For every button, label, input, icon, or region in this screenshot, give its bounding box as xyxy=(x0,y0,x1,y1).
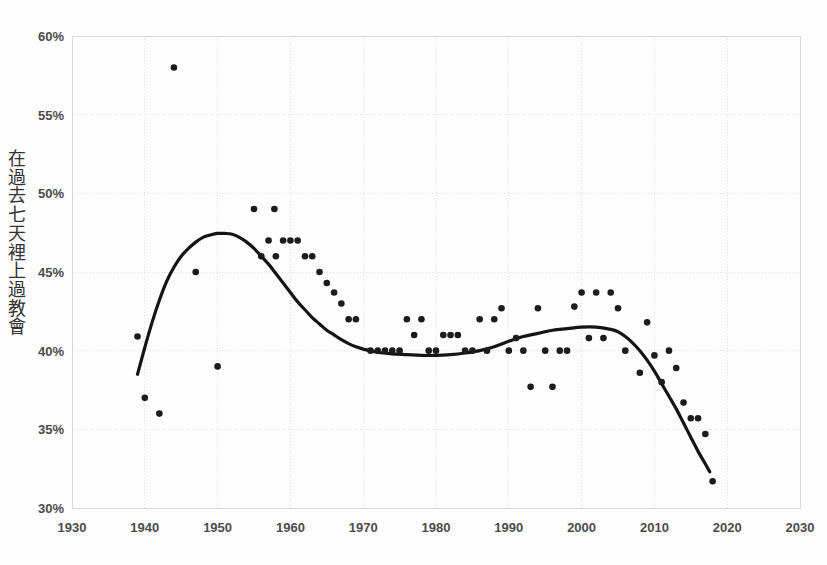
data-point xyxy=(280,237,287,244)
data-point xyxy=(556,347,563,354)
data-point xyxy=(273,253,280,260)
data-point xyxy=(527,384,534,391)
data-point xyxy=(331,289,338,296)
x-tick-label-2030: 2030 xyxy=(786,520,815,535)
y-axis-title: 在過去七天裡上過教會 xyxy=(4,150,30,337)
data-point xyxy=(192,269,199,276)
data-point xyxy=(688,415,695,422)
data-point xyxy=(578,289,585,296)
x-tick-label-1980: 1980 xyxy=(422,520,451,535)
data-point xyxy=(564,347,571,354)
y-tick-label-60: 60% xyxy=(38,29,64,44)
data-point xyxy=(506,347,513,354)
data-point xyxy=(374,347,381,354)
y-tick-label-55: 55% xyxy=(38,108,64,123)
y-axis-title-char: 會 xyxy=(8,318,26,337)
data-point xyxy=(637,369,644,376)
data-point xyxy=(462,347,469,354)
data-point xyxy=(571,303,578,310)
y-tick-label-40: 40% xyxy=(38,344,64,359)
data-point xyxy=(658,379,665,386)
y-axis-title-char: 天 xyxy=(8,225,26,244)
data-point xyxy=(695,415,702,422)
data-point xyxy=(440,332,447,339)
data-point xyxy=(702,431,709,438)
data-point xyxy=(265,237,272,244)
x-axis-tick-labels: 1930194019501960197019801990200020102020… xyxy=(58,520,815,535)
data-point xyxy=(491,316,498,323)
data-point xyxy=(498,305,505,312)
data-point xyxy=(651,352,658,359)
x-tick-label-1990: 1990 xyxy=(494,520,523,535)
y-axis-tick-labels: 30%35%40%45%50%55%60% xyxy=(38,29,64,516)
data-point xyxy=(271,206,278,213)
data-point xyxy=(287,237,294,244)
data-point xyxy=(353,316,360,323)
plot-canvas: 30%35%40%45%50%55%60% 193019401950196019… xyxy=(0,0,827,565)
y-axis-title-char: 在 xyxy=(8,150,26,169)
data-point xyxy=(404,316,411,323)
data-point xyxy=(644,319,651,326)
data-point xyxy=(469,347,476,354)
data-point xyxy=(447,332,454,339)
data-point xyxy=(622,347,629,354)
y-tick-label-50: 50% xyxy=(38,186,64,201)
x-tick-label-1970: 1970 xyxy=(349,520,378,535)
x-tick-label-2000: 2000 xyxy=(567,520,596,535)
data-point xyxy=(680,399,687,406)
data-point xyxy=(214,363,221,370)
data-point xyxy=(156,410,163,417)
data-point xyxy=(142,395,149,402)
data-point xyxy=(294,237,301,244)
data-point xyxy=(309,253,316,260)
data-point xyxy=(258,253,265,260)
data-point xyxy=(593,289,600,296)
data-point xyxy=(367,347,374,354)
y-tick-label-45: 45% xyxy=(38,265,64,280)
data-point xyxy=(425,347,432,354)
data-point xyxy=(171,64,178,71)
data-point xyxy=(338,300,345,307)
data-point xyxy=(382,347,389,354)
data-point xyxy=(484,347,491,354)
church-attendance-scatter-chart: 30%35%40%45%50%55%60% 193019401950196019… xyxy=(0,0,827,565)
data-point xyxy=(542,347,549,354)
data-point xyxy=(134,333,141,340)
data-point xyxy=(600,335,607,342)
x-tick-label-1930: 1930 xyxy=(58,520,87,535)
data-points xyxy=(134,64,716,484)
data-point xyxy=(709,478,716,485)
data-point xyxy=(396,347,403,354)
x-tick-label-1960: 1960 xyxy=(276,520,305,535)
data-point xyxy=(251,206,258,213)
x-tick-label-1940: 1940 xyxy=(130,520,159,535)
x-tick-label-1950: 1950 xyxy=(203,520,232,535)
data-point xyxy=(389,347,396,354)
y-axis-title-char: 過 xyxy=(8,281,26,300)
data-point xyxy=(324,280,331,287)
data-point xyxy=(476,316,483,323)
data-point xyxy=(345,316,352,323)
data-point xyxy=(673,365,680,372)
chart-screen: 30%35%40%45%50%55%60% 193019401950196019… xyxy=(0,0,827,565)
x-tick-label-2020: 2020 xyxy=(713,520,742,535)
y-tick-label-35: 35% xyxy=(38,422,64,437)
data-point xyxy=(433,347,440,354)
x-tick-label-2010: 2010 xyxy=(640,520,669,535)
data-point xyxy=(549,384,556,391)
data-point xyxy=(666,347,673,354)
data-point xyxy=(513,335,520,342)
data-point xyxy=(586,335,593,342)
data-point xyxy=(607,289,614,296)
data-point xyxy=(302,253,309,260)
data-point xyxy=(316,269,323,276)
y-tick-label-30: 30% xyxy=(38,501,64,516)
data-point xyxy=(520,347,527,354)
data-point xyxy=(411,332,418,339)
data-point xyxy=(455,332,462,339)
data-point xyxy=(535,305,542,312)
data-point xyxy=(615,305,622,312)
data-point xyxy=(418,316,425,323)
